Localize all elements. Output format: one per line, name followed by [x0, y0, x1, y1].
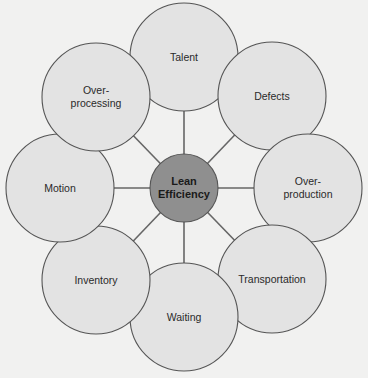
node-label-over-production: Over- production — [283, 175, 332, 201]
node-label-inventory: Inventory — [74, 274, 117, 287]
node-label-motion: Motion — [44, 182, 76, 195]
node-label-talent: Talent — [170, 51, 198, 64]
node-label-defects: Defects — [254, 90, 290, 103]
node-label-over-processing: Over- processing — [71, 84, 122, 110]
node-label-transportation: Transportation — [238, 273, 305, 286]
node-label-waiting: Waiting — [167, 311, 202, 324]
center-label: Lean Efficiency — [158, 175, 210, 201]
